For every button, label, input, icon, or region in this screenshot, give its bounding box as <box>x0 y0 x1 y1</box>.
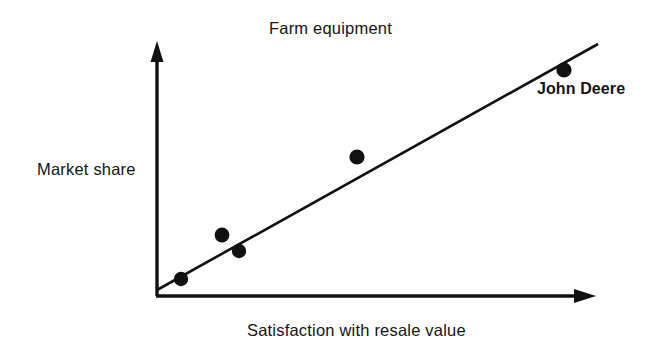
x-axis-title: Satisfaction with resale value <box>247 321 466 340</box>
data-point-marker <box>232 244 246 258</box>
data-point-marker-john-deere <box>556 62 571 77</box>
y-axis-title: Market share <box>37 160 136 179</box>
data-point-marker <box>349 149 364 164</box>
data-point-marker <box>174 272 188 286</box>
chart-canvas: Farm equipment Market share Satisfaction… <box>0 0 672 355</box>
x-axis-arrowhead-icon <box>574 289 596 303</box>
data-point-annotation-john-deere: John Deere <box>537 80 625 98</box>
data-point-marker <box>215 228 230 243</box>
chart-title: Farm equipment <box>269 19 392 38</box>
trend-line <box>157 44 598 290</box>
y-axis-arrowhead-icon <box>151 41 164 62</box>
